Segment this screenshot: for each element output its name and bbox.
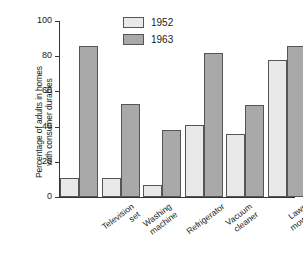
bar-1963[interactable]: [162, 130, 181, 197]
x-axis-label: Washing machine: [141, 202, 179, 237]
bar-1963[interactable]: [79, 46, 98, 197]
bar-1952[interactable]: [102, 178, 121, 197]
y-tick-label-40: 40: [42, 121, 52, 131]
bar-1952[interactable]: [226, 134, 245, 197]
bar-1963[interactable]: [287, 46, 304, 197]
legend-label-1952: 1952: [151, 17, 173, 28]
legend-item-1952[interactable]: 1952: [123, 17, 173, 28]
legend-item-1963[interactable]: 1963: [123, 34, 173, 45]
x-axis-label: Refrigerator: [185, 202, 227, 237]
legend-swatch-1952-icon: [123, 17, 144, 28]
bar-group: [226, 21, 264, 197]
bar-1952[interactable]: [143, 185, 162, 197]
bar-1952[interactable]: [60, 178, 79, 197]
bar-1963[interactable]: [121, 104, 140, 197]
plot-area: 020406080100: [60, 21, 292, 197]
bar-group: [60, 21, 98, 197]
y-tick-label-0: 0: [47, 191, 52, 201]
x-axis-label: Television set: [101, 202, 142, 240]
bar-1963[interactable]: [245, 105, 264, 197]
bar-1963[interactable]: [204, 53, 223, 197]
legend-swatch-1963-icon: [123, 34, 144, 45]
bar-1952[interactable]: [268, 60, 287, 197]
y-tick-label-100: 100: [37, 15, 52, 25]
bar-chart: Percentage of adults in homes with consu…: [0, 0, 303, 258]
x-axis-label: Lawn mower: [268, 202, 303, 244]
bar-series-container: [60, 21, 292, 197]
y-tick-label-20: 20: [42, 156, 52, 166]
x-axis-line: [59, 197, 295, 198]
y-tick-0: 0: [55, 197, 60, 198]
legend-label-1963: 1963: [151, 34, 173, 45]
bar-group: [268, 21, 304, 197]
y-tick-label-60: 60: [42, 85, 52, 95]
y-tick-label-80: 80: [42, 50, 52, 60]
legend: 1952 1963: [123, 17, 173, 51]
x-axis-label: Vacuum cleaner: [224, 202, 260, 236]
bar-1952[interactable]: [185, 125, 204, 197]
bar-group: [185, 21, 223, 197]
